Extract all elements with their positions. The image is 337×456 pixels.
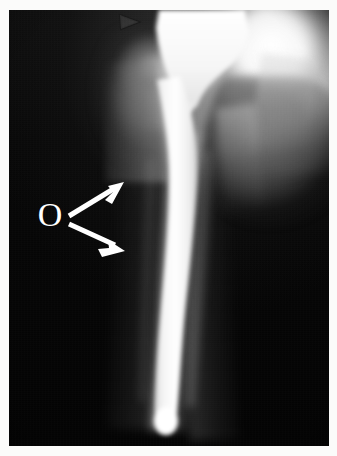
radiograph-plate: O xyxy=(9,10,329,446)
upper-arrow xyxy=(69,182,124,216)
annotation-label-o: O xyxy=(29,198,71,232)
radiograph-figure: O xyxy=(0,0,337,456)
lower-arrow xyxy=(69,224,125,257)
